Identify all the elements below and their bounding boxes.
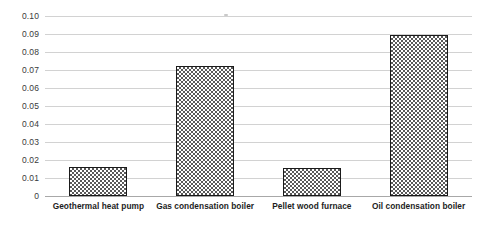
bar-chart: 00.010.020.030.040.050.060.070.080.090.1… [0,0,489,231]
x-tick-label: Pellet wood furnace [272,201,351,211]
scan-artifact-speck [224,14,228,16]
bar [390,35,448,196]
y-tick-label: 0.09 [22,29,39,39]
y-tick-label: 0.02 [22,155,39,165]
y-tick-label: 0.08 [22,47,39,57]
y-tick-label: 0.07 [22,65,39,75]
plot-area [45,16,472,196]
y-tick-label: 0 [34,191,39,201]
x-axis: Geothermal heat pumpGas condensation boi… [45,201,472,223]
x-tick-label: Geothermal heat pump [53,201,144,211]
bars-group [45,16,472,196]
bar [176,66,234,196]
y-tick-label: 0.01 [22,173,39,183]
y-tick-label: 0.10 [22,11,39,21]
y-tick-label: 0.05 [22,101,39,111]
bar [69,167,127,196]
x-tick-label: Oil condensation boiler [372,201,465,211]
y-tick-label: 0.04 [22,119,39,129]
bar [283,168,341,196]
x-tick-label: Gas condensation boiler [156,201,254,211]
y-axis: 00.010.020.030.040.050.060.070.080.090.1… [0,0,45,231]
y-tick-label: 0.06 [22,83,39,93]
y-tick-label: 0.03 [22,137,39,147]
gridline-0 [45,196,472,197]
